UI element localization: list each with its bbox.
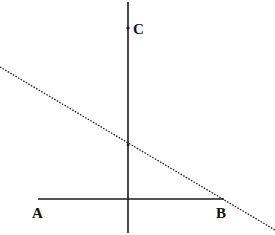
point-intersection <box>127 144 130 147</box>
label-a: A <box>32 206 43 221</box>
label-c: C <box>133 22 144 37</box>
point-c <box>126 26 129 29</box>
label-b: B <box>216 206 226 221</box>
